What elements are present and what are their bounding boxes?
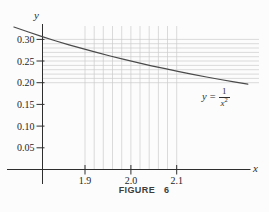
x-tick-label: 2.0 xyxy=(125,175,138,186)
equation-equals: = xyxy=(210,92,216,103)
x-axis-label: x xyxy=(253,163,258,174)
y-tick-label: 0.15 xyxy=(17,99,35,110)
figure-6-container: 0.050.100.150.200.250.301.92.02.1 y x y … xyxy=(0,0,269,212)
y-tick-label: 0.30 xyxy=(17,34,35,45)
y-axis-label: y xyxy=(34,10,39,21)
curve-equation-label: y = 1 x2 xyxy=(202,87,230,108)
x-tick-label: 2.1 xyxy=(170,175,183,186)
y-tick-label: 0.20 xyxy=(17,77,35,88)
y-tick-label: 0.05 xyxy=(17,142,35,153)
y-tick-label: 0.25 xyxy=(17,56,35,67)
equation-fraction: 1 x2 xyxy=(219,87,230,108)
x-tick-label: 1.9 xyxy=(79,175,92,186)
y-tick-label: 0.10 xyxy=(17,121,35,132)
equation-lhs: y xyxy=(202,92,207,103)
fraction-denominator: x2 xyxy=(219,97,230,108)
fraction-denominator-exponent: 2 xyxy=(225,96,228,103)
figure-caption: FIGURE 6 xyxy=(20,185,268,195)
